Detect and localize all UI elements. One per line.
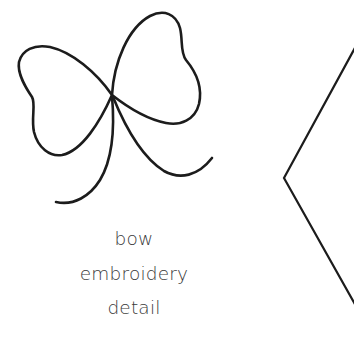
chevron-left-icon[interactable]: [270, 0, 354, 361]
caption-line-3: detail: [64, 291, 204, 326]
bow-icon: [0, 0, 240, 220]
caption-line-2: embroidery: [64, 257, 204, 292]
caption-line-1: bow: [64, 222, 204, 257]
bow-right-loop: [112, 13, 200, 124]
bow-left-loop: [19, 46, 112, 155]
caption: bow embroidery detail: [64, 222, 204, 326]
